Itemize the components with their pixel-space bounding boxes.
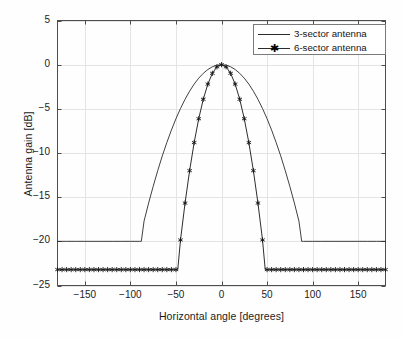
data-point-star-marker xyxy=(201,97,206,102)
x-tick-label: −50 xyxy=(151,289,201,300)
y-tick-label: −25 xyxy=(14,279,50,290)
y-tick-label: 0 xyxy=(14,58,50,69)
data-point-star-marker xyxy=(187,168,192,173)
x-tick-label: −150 xyxy=(60,289,110,300)
data-point-star-marker xyxy=(237,97,242,102)
y-tick-label: −20 xyxy=(14,234,50,245)
legend-swatch-line xyxy=(254,27,294,41)
data-point-star-marker xyxy=(233,82,238,87)
legend-label-3-sector: 3-sector antenna xyxy=(294,28,367,39)
data-point-star-marker xyxy=(196,116,201,121)
x-tick-label: 50 xyxy=(242,289,292,300)
y-tick-label: 5 xyxy=(14,14,50,25)
grid-lines xyxy=(58,21,386,287)
data-point-star-marker xyxy=(251,168,256,173)
data-point-star-marker xyxy=(247,140,252,145)
data-point-star-marker xyxy=(206,82,211,87)
y-tick-label: −10 xyxy=(14,146,50,157)
legend-box[interactable]: 3-sector antenna ✱ 6-sector antenna xyxy=(253,24,386,55)
series-line-6-sector xyxy=(58,65,386,270)
data-point-star-marker xyxy=(183,200,188,205)
star-marker-icon: ✱ xyxy=(270,42,279,53)
y-tick-label: −15 xyxy=(14,190,50,201)
legend-item-6-sector[interactable]: ✱ 6-sector antenna xyxy=(254,40,387,55)
x-tick-label: −100 xyxy=(105,289,155,300)
x-tick-label: 100 xyxy=(288,289,338,300)
legend-swatch-line-star: ✱ xyxy=(254,41,294,55)
legend-item-3-sector[interactable]: 3-sector antenna xyxy=(254,26,387,41)
data-point-star-marker xyxy=(242,116,247,121)
y-tick-label: −5 xyxy=(14,102,50,113)
legend-label-6-sector: 6-sector antenna xyxy=(294,42,367,53)
x-axis-label: Horizontal angle [degrees] xyxy=(57,310,386,322)
data-series xyxy=(55,62,388,272)
x-tick-label: 0 xyxy=(197,289,247,300)
data-point-star-marker xyxy=(192,140,197,145)
antenna-gain-chart-figure: Antenna gain [dB] Horizontal angle [degr… xyxy=(0,0,403,339)
data-point-star-marker xyxy=(256,200,261,205)
x-tick-label: 150 xyxy=(333,289,383,300)
